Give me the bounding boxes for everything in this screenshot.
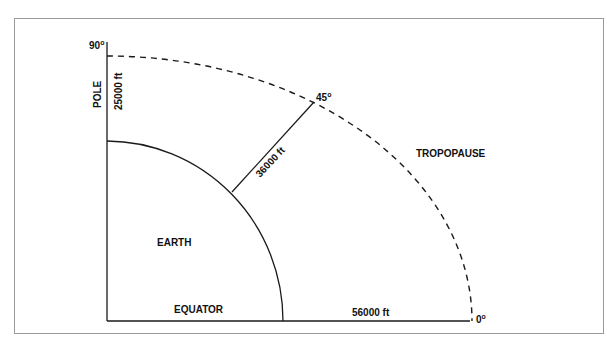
tropopause-label: TROPOPAUSE [416, 148, 486, 159]
angle-45-label: 45o [316, 91, 331, 103]
equator-label: EQUATOR [174, 304, 224, 315]
pole-label: POLE [92, 80, 103, 108]
angle-90-label: 90o [89, 39, 104, 51]
tropopause-diagram: 90o 45o 0o POLE 25000 ft 36000 ft EARTH … [0, 0, 614, 349]
angle-0-label: 0o [476, 313, 486, 325]
mid-latitude-line [232, 102, 314, 192]
pole-height-label: 25000 ft [113, 72, 124, 110]
equator-height-label: 56000 ft [352, 307, 390, 318]
earth-label: EARTH [157, 237, 191, 248]
tropopause-arc [107, 56, 472, 321]
